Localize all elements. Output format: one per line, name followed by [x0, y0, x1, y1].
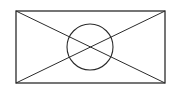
- diagram-svg: [0, 0, 175, 97]
- diagram-canvas: [0, 0, 175, 97]
